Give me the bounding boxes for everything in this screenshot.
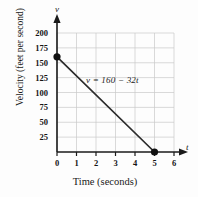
equation-annotation: v = 160 − 32t	[86, 75, 139, 85]
x-axis-letter: t	[186, 142, 189, 152]
x-tick-label: 2	[89, 159, 103, 168]
x-tick-label-group: 0 1 2 3 4 5 6	[0, 0, 198, 197]
x-axis-title: Time (seconds)	[30, 176, 180, 187]
x-tick-label: 1	[70, 159, 84, 168]
x-tick-label: 5	[148, 159, 162, 168]
y-axis-title: Velocity (feet per second)	[15, 0, 25, 127]
x-tick-label: 6	[167, 159, 181, 168]
y-axis-letter: v	[55, 4, 59, 14]
chart-figure: 200 175 150 125 100 75 50 25 0 1 2 3 4 5…	[0, 0, 198, 197]
x-tick-label: 3	[109, 159, 123, 168]
x-tick-label: 0	[50, 159, 64, 168]
x-tick-label: 4	[128, 159, 142, 168]
